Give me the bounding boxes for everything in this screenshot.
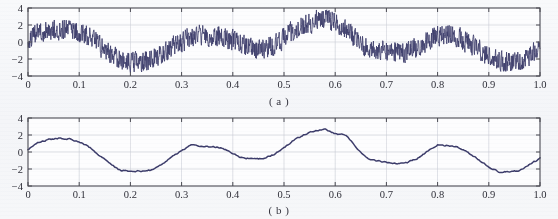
svg-text:0: 0	[18, 37, 23, 48]
svg-text:4: 4	[18, 113, 24, 124]
svg-text:0.7: 0.7	[380, 189, 393, 200]
svg-text:0.7: 0.7	[380, 79, 393, 90]
svg-text:0.2: 0.2	[124, 189, 137, 200]
svg-text:0.3: 0.3	[175, 79, 188, 90]
plot-b-svg: −4−202400.10.20.30.40.50.60.70.80.91.0	[0, 110, 558, 205]
svg-text:0.2: 0.2	[124, 79, 137, 90]
plot-a-svg: −4−202400.10.20.30.40.50.60.70.80.91.0	[0, 0, 558, 95]
svg-text:−4: −4	[12, 71, 24, 82]
svg-text:−2: −2	[12, 164, 23, 175]
svg-text:0.9: 0.9	[482, 189, 495, 200]
plot-panel-b: −4−202400.10.20.30.40.50.60.70.80.91.0	[0, 110, 558, 205]
svg-text:0.6: 0.6	[329, 79, 342, 90]
caption-b: ( b )	[0, 204, 558, 216]
svg-text:0.4: 0.4	[226, 79, 240, 90]
svg-text:−4: −4	[12, 181, 24, 192]
figure-root: −4−202400.10.20.30.40.50.60.70.80.91.0 (…	[0, 0, 558, 219]
caption-a: ( a )	[0, 95, 558, 107]
svg-text:0.1: 0.1	[73, 189, 86, 200]
svg-text:0.5: 0.5	[277, 79, 290, 90]
svg-text:0: 0	[18, 147, 23, 158]
svg-text:2: 2	[18, 130, 23, 141]
svg-text:0.8: 0.8	[431, 79, 444, 90]
svg-text:4: 4	[18, 3, 24, 14]
plot-panel-a: −4−202400.10.20.30.40.50.60.70.80.91.0	[0, 0, 558, 95]
svg-text:0: 0	[25, 79, 30, 90]
svg-text:0.5: 0.5	[277, 189, 290, 200]
svg-text:0.9: 0.9	[482, 79, 495, 90]
svg-text:0.8: 0.8	[431, 189, 444, 200]
svg-text:1.0: 1.0	[533, 79, 546, 90]
svg-text:2: 2	[18, 20, 23, 31]
svg-text:1.0: 1.0	[533, 189, 546, 200]
svg-text:0.4: 0.4	[226, 189, 240, 200]
svg-text:0.6: 0.6	[329, 189, 342, 200]
svg-text:0.1: 0.1	[73, 79, 86, 90]
svg-text:0.3: 0.3	[175, 189, 188, 200]
svg-text:0: 0	[25, 189, 30, 200]
svg-text:−2: −2	[12, 54, 23, 65]
